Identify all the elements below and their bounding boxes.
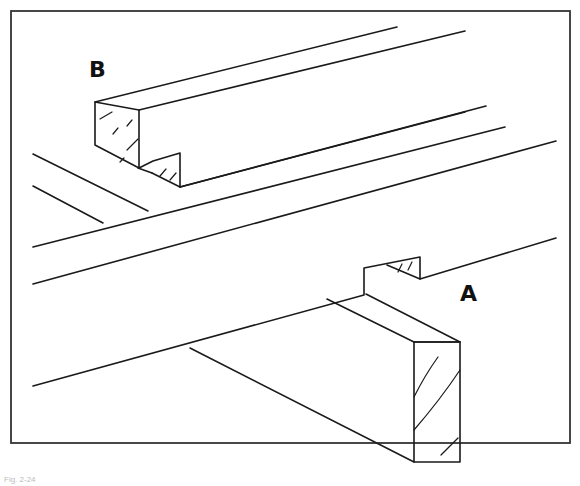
joinery-diagram: B A Fig. 2-24 bbox=[0, 0, 580, 486]
main-beam bbox=[33, 127, 556, 386]
figure-caption: Fig. 2-24 bbox=[4, 475, 36, 484]
label-a: A bbox=[460, 281, 477, 306]
member-b bbox=[95, 27, 486, 187]
member-a bbox=[190, 262, 460, 462]
label-b: B bbox=[89, 57, 106, 82]
